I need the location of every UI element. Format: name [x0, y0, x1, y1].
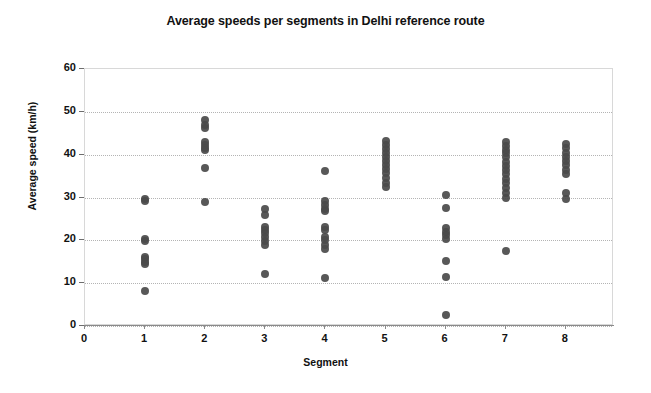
- data-point: [261, 211, 269, 219]
- y-tick-label-0: 0: [6, 318, 76, 330]
- y-tick-mark-60: [79, 68, 84, 69]
- data-point: [261, 270, 269, 278]
- gridline-y-50: [85, 112, 612, 113]
- y-tick-label-40: 40: [6, 147, 76, 159]
- data-point: [321, 167, 329, 175]
- x-tick-mark-2: [204, 325, 205, 329]
- y-tick-label-20: 20: [6, 232, 76, 244]
- y-tick-mark-40: [79, 154, 84, 155]
- y-tick-label-60: 60: [6, 61, 76, 73]
- x-tick-mark-7: [505, 325, 506, 329]
- x-tick-label-7: 7: [485, 332, 525, 344]
- data-point: [442, 235, 450, 243]
- x-tick-mark-6: [445, 325, 446, 329]
- data-point: [141, 287, 149, 295]
- y-tick-mark-30: [79, 197, 84, 198]
- y-tick-label-50: 50: [6, 104, 76, 116]
- gridline-y-0: [85, 326, 612, 327]
- plot-area: [84, 68, 613, 325]
- data-point: [141, 237, 149, 245]
- x-tick-label-3: 3: [244, 332, 284, 344]
- x-tick-mark-0: [84, 325, 85, 329]
- x-tick-label-1: 1: [124, 332, 164, 344]
- x-tick-label-6: 6: [425, 332, 465, 344]
- data-point: [321, 274, 329, 282]
- gridline-y-10: [85, 283, 612, 284]
- data-point: [562, 195, 570, 203]
- y-tick-mark-10: [79, 282, 84, 283]
- data-point: [201, 124, 209, 132]
- x-tick-mark-3: [264, 325, 265, 329]
- x-tick-mark-5: [385, 325, 386, 329]
- data-point: [201, 198, 209, 206]
- y-tick-label-10: 10: [6, 275, 76, 287]
- data-point: [141, 197, 149, 205]
- data-point: [442, 191, 450, 199]
- scatter-chart-figure: Average speeds per segments in Delhi ref…: [0, 0, 651, 393]
- gridline-y-40: [85, 155, 612, 156]
- data-point: [141, 260, 149, 268]
- x-tick-label-5: 5: [365, 332, 405, 344]
- data-point: [562, 170, 570, 178]
- x-tick-mark-8: [565, 325, 566, 329]
- data-point: [442, 257, 450, 265]
- data-point: [321, 245, 329, 253]
- x-tick-label-8: 8: [545, 332, 585, 344]
- chart-title: Average speeds per segments in Delhi ref…: [0, 14, 651, 28]
- data-point: [502, 194, 510, 202]
- y-tick-mark-20: [79, 239, 84, 240]
- data-point: [442, 311, 450, 319]
- x-tick-label-0: 0: [64, 332, 104, 344]
- y-tick-mark-50: [79, 111, 84, 112]
- data-point: [201, 164, 209, 172]
- x-axis-title: Segment: [0, 356, 651, 368]
- x-tick-mark-4: [324, 325, 325, 329]
- data-point: [321, 207, 329, 215]
- x-tick-label-2: 2: [184, 332, 224, 344]
- data-point: [502, 247, 510, 255]
- data-point: [382, 183, 390, 191]
- y-tick-label-30: 30: [6, 190, 76, 202]
- data-point: [201, 146, 209, 154]
- gridline-y-30: [85, 198, 612, 199]
- y-axis-title: Average speed (km/h): [26, 71, 38, 241]
- data-point: [261, 241, 269, 249]
- gridline-y-20: [85, 240, 612, 241]
- x-tick-label-4: 4: [304, 332, 344, 344]
- data-point: [442, 273, 450, 281]
- x-tick-mark-1: [144, 325, 145, 329]
- data-point: [442, 204, 450, 212]
